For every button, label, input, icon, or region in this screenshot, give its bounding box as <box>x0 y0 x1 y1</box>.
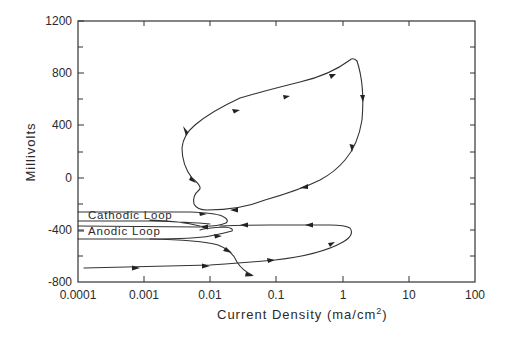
polarization-chart: 1200 800 400 0 -400 -800 0.0001 0.001 0.… <box>0 0 505 339</box>
arrow-icon <box>202 264 210 269</box>
x-axis-ticks <box>144 21 409 282</box>
lower-tail-curve <box>150 239 252 275</box>
y-tick-label: 800 <box>52 66 72 80</box>
direction-arrows <box>132 74 365 277</box>
arrow-icon <box>267 258 275 263</box>
y-tick-label: 400 <box>52 118 72 132</box>
plot-frame <box>78 21 475 282</box>
y-tick-label: -800 <box>48 275 72 289</box>
y-tick-label: 1200 <box>45 14 72 28</box>
x-axis-title-main: Current Density (ma/cm <box>217 307 376 322</box>
passive-loop-curve <box>182 59 363 210</box>
x-tick-label: 0.001 <box>129 288 159 302</box>
x-axis-title-close: ) <box>382 307 387 322</box>
x-axis-labels: 0.0001 0.001 0.01 0.1 1 10 100 <box>60 288 486 302</box>
cathodic-loop-label: Cathodic Loop <box>88 209 173 221</box>
arrow-icon <box>305 223 313 228</box>
x-tick-label: 0.0001 <box>60 288 97 302</box>
y-axis-labels: 1200 800 400 0 -400 -800 <box>45 14 72 289</box>
arrow-icon <box>283 95 290 100</box>
x-axis-title: Current Density (ma/cm2) <box>217 306 388 322</box>
anodic-loop-label: Anodic Loop <box>88 225 161 237</box>
arrow-icon <box>245 272 254 277</box>
arrow-icon <box>189 176 196 183</box>
x-tick-label: 100 <box>465 288 485 302</box>
arrow-icon <box>183 126 188 136</box>
y-axis-title: Millivolts <box>23 122 38 181</box>
x-tick-label: 0.01 <box>198 288 222 302</box>
x-tick-label: 0.1 <box>268 288 285 302</box>
arrow-icon <box>240 223 248 228</box>
x-tick-label: 10 <box>402 288 416 302</box>
y-tick-label: -400 <box>48 223 72 237</box>
y-tick-label: 0 <box>65 171 72 185</box>
arrow-icon <box>232 109 240 114</box>
x-tick-label: 1 <box>340 288 347 302</box>
polarization-curve <box>78 59 363 275</box>
arrow-icon <box>329 74 336 79</box>
